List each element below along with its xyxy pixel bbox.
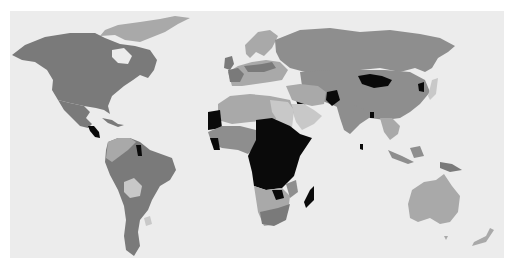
region-north-america — [12, 33, 157, 114]
region-russia — [275, 28, 455, 74]
world-map-svg — [10, 11, 504, 258]
region-uk — [224, 56, 234, 70]
region-greenland — [100, 16, 190, 42]
region-papua-new-guinea — [440, 162, 462, 172]
region-scandinavia — [245, 30, 278, 58]
region-central-america — [88, 126, 100, 138]
region-indonesia — [388, 146, 424, 164]
region-australia — [408, 174, 460, 224]
region-arabia — [290, 104, 322, 130]
region-uruguay — [144, 216, 152, 226]
region-new-zealand — [472, 228, 494, 246]
region-tasmania — [444, 236, 448, 240]
region-bangladesh — [370, 112, 374, 118]
region-sri-lanka — [360, 144, 363, 150]
region-japan — [428, 78, 438, 100]
world-map — [10, 11, 504, 258]
region-madagascar — [304, 186, 314, 208]
region-caribbean — [102, 118, 124, 127]
region-se-asia — [380, 118, 400, 140]
